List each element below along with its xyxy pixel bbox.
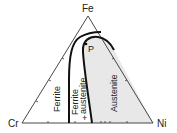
vertex-fe-label: Fe [82,3,94,14]
vertex-cr-label: Cr [8,118,19,129]
point-p-marker [85,43,88,46]
point-p-label: P [88,44,94,54]
plus-marker: + [82,113,87,123]
austenite-label: Austenite [109,74,119,112]
ferrite-austenite-label-line2: austenite [78,77,88,114]
ferrite-label: Ferrite [52,86,62,112]
ternary-diagram: P Fe Cr Ni Ferrite Ferrite austenite Aus… [0,0,177,133]
vertex-ni-label: Ni [157,118,166,129]
